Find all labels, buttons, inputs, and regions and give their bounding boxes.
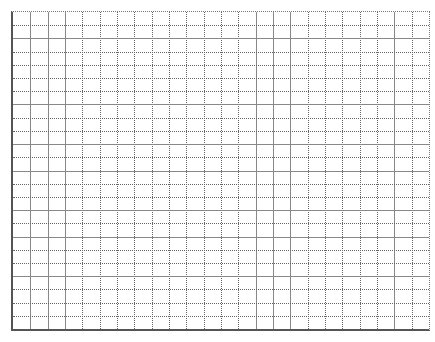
grid-line-horizontal	[13, 25, 429, 26]
grid-line-horizontal	[13, 250, 429, 251]
grid-line-horizontal	[13, 263, 429, 264]
grid-line-horizontal	[13, 171, 429, 172]
grid-line-horizontal	[13, 144, 429, 145]
grid-line-horizontal	[13, 184, 429, 185]
grid-line-horizontal	[13, 38, 429, 39]
grid-line-horizontal	[13, 157, 429, 158]
grid-line-horizontal	[13, 289, 429, 290]
grid-line-horizontal	[13, 316, 429, 317]
grid-line-horizontal	[13, 52, 429, 53]
grid-line-horizontal	[13, 303, 429, 304]
grid-line-horizontal	[13, 197, 429, 198]
grid-line-horizontal	[13, 210, 429, 211]
grid-line-horizontal	[13, 65, 429, 66]
grid-plot-area	[11, 11, 430, 331]
grid-line-horizontal	[13, 78, 429, 79]
grid-line-horizontal	[13, 237, 429, 238]
grid-line-horizontal	[13, 91, 429, 92]
grid-line-horizontal	[13, 223, 429, 224]
grid-line-horizontal	[13, 276, 429, 277]
grid-line-horizontal	[13, 131, 429, 132]
grid-line-horizontal	[13, 104, 429, 105]
chart-caption	[0, 333, 435, 342]
grid-line-horizontal	[13, 118, 429, 119]
